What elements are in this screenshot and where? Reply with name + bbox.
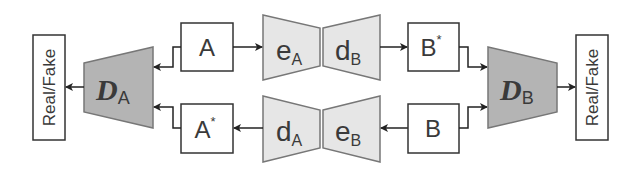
- connector-b-to-db: [459, 107, 487, 128]
- box-a-star-sup: *: [210, 114, 215, 129]
- decoder-b: dB: [323, 15, 380, 80]
- box-b-star-label: B: [420, 34, 436, 61]
- cyclegan-diagram: Real/Fake DA A A* eA dB: [0, 0, 637, 171]
- discriminator-b-sub: B: [522, 88, 534, 108]
- svg-text:A: A: [199, 34, 215, 61]
- box-b-star-sup: *: [436, 32, 441, 47]
- real-fake-right-label: Real/Fake: [583, 49, 602, 126]
- box-b-star: B*: [408, 23, 459, 71]
- discriminator-b-main: D: [499, 73, 522, 106]
- encoder-a-main: e: [276, 35, 292, 66]
- real-fake-right-box: Real/Fake: [576, 35, 608, 140]
- connector-a-star-to-da: [154, 107, 181, 128]
- box-a: A: [181, 23, 233, 71]
- encoder-b-main: e: [335, 116, 351, 147]
- decoder-b-sub: B: [351, 51, 362, 68]
- box-a-star-label: A: [194, 116, 210, 143]
- decoder-b-main: d: [335, 35, 351, 66]
- box-a-star: A*: [181, 104, 233, 153]
- box-a-label: A: [199, 34, 215, 61]
- connector-bstar-to-db: [459, 47, 487, 67]
- encoder-a-sub: A: [292, 51, 303, 68]
- decoder-a-main: d: [276, 116, 292, 147]
- real-fake-left-label: Real/Fake: [40, 49, 59, 126]
- box-b: B: [408, 104, 459, 153]
- discriminator-a-sub: A: [118, 88, 130, 108]
- discriminator-b: DB: [488, 47, 557, 128]
- decoder-a: dA: [263, 96, 320, 162]
- real-fake-left-box: Real/Fake: [33, 35, 65, 140]
- encoder-b: eB: [323, 96, 380, 162]
- decoder-a-sub: A: [292, 132, 303, 149]
- discriminator-a-main: D: [95, 73, 118, 106]
- svg-text:B: B: [425, 115, 441, 142]
- connector-a-to-da: [154, 47, 181, 67]
- discriminator-a: DA: [84, 47, 153, 128]
- box-b-label: B: [425, 115, 441, 142]
- encoder-b-sub: B: [351, 132, 362, 149]
- encoder-a: eA: [263, 15, 320, 80]
